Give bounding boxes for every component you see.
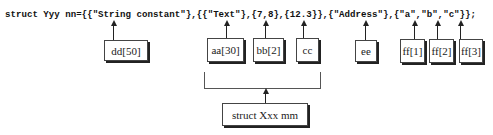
- member-box-ff3: ff[3]: [459, 39, 483, 63]
- arrow-bb: [265, 25, 266, 38]
- arrow-nested-struct: [265, 93, 266, 103]
- arrow-ff3: [460, 25, 461, 39]
- arrow-aa: [226, 25, 227, 38]
- bracket-right: [320, 72, 321, 89]
- member-box-ff2: ff[2]: [429, 39, 454, 63]
- nested-struct-box: struct Xxx mm: [222, 103, 308, 126]
- bracket-left: [204, 72, 205, 89]
- member-box-ee: ee: [355, 40, 377, 62]
- arrow-cc: [303, 25, 304, 38]
- arrow-ff2: [437, 25, 438, 39]
- arrow-ff1: [414, 25, 415, 39]
- member-box-bb: bb[2]: [253, 38, 284, 62]
- struct-initializer-code: struct Yyy nn={{"String constant"},{{"Te…: [5, 9, 476, 20]
- arrow-ee: [365, 25, 366, 40]
- member-box-dd: dd[50]: [104, 40, 148, 61]
- arrow-dd: [113, 25, 114, 40]
- member-box-ff1: ff[1]: [400, 39, 425, 63]
- member-box-aa: aa[30]: [207, 38, 244, 62]
- member-box-cc: cc: [296, 38, 319, 62]
